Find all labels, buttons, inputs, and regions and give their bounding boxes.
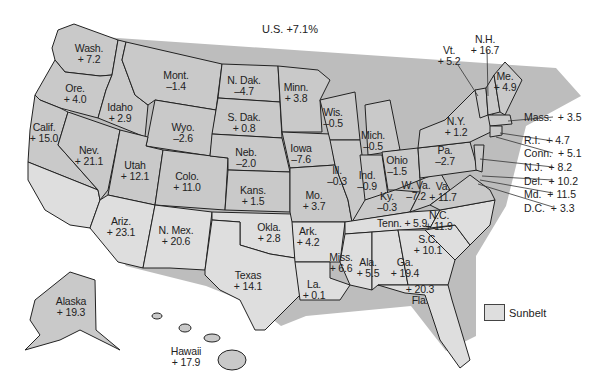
label-okla: Okla.+ 2.8 (257, 222, 281, 244)
state-hawaii-oahu[interactable] (179, 324, 191, 332)
label-pa: Pa.–2.7 (435, 145, 455, 167)
callout-del: Del. + 10.2 (524, 175, 578, 187)
callout-dc: D.C. + 3.3 (524, 202, 575, 214)
label-tenn: Tenn. + 5.9 (377, 218, 427, 229)
label-idaho: Idaho+ 2.9 (107, 102, 132, 124)
state-hawaii-big-island[interactable] (218, 350, 246, 370)
label-ga: Ga.+ 19.4 (391, 257, 419, 279)
label-nc: N.C.+ 11.9 (425, 210, 453, 232)
state-conn[interactable] (490, 126, 502, 137)
label-ny: N.Y.+ 1.2 (445, 116, 468, 138)
label-colo: Colo.+ 11.0 (173, 171, 201, 193)
state-hawaii-maui[interactable] (204, 334, 220, 342)
callout-mass: Mass. + 3.5 (524, 111, 582, 123)
label-neb: Neb.–2.0 (235, 147, 256, 169)
label-kans: Kans.+ 1.5 (240, 185, 266, 207)
sunbelt-swatch (484, 304, 505, 321)
label-hawaii: Hawaii+ 17.9 (171, 346, 201, 368)
label-ndak: N. Dak.–4.7 (227, 75, 261, 97)
label-wyo: Wyo.–2.6 (171, 122, 194, 144)
legend-label: Sunbelt (509, 307, 546, 319)
callout-nj: N.J. + 8.2 (524, 161, 572, 173)
label-nev: Nev.+ 21.1 (75, 145, 103, 167)
state-nj[interactable] (474, 145, 484, 172)
label-utah: Utah+ 12.1 (121, 160, 149, 182)
label-ill: Ill.–0.3 (327, 165, 347, 187)
callout-md: Md. + 11.5 (524, 188, 576, 200)
label-vt: Vt.+ 5.2 (438, 45, 461, 67)
label-va: Va.+ 11.7 (429, 181, 457, 203)
label-wash: Wash.+ 7.2 (75, 43, 103, 65)
callout-conn: Conn. + 5.1 (524, 147, 582, 159)
callout-ri: R.I. + 4.7 (524, 134, 570, 146)
label-mont: Mont.–1.4 (163, 70, 188, 92)
label-mo: Mo.+ 3.7 (303, 190, 326, 212)
label-texas: Texas+ 14.1 (234, 270, 262, 292)
label-alaska: Alaska+ 19.3 (56, 296, 86, 318)
state-mass[interactable] (488, 115, 512, 126)
legend: Sunbelt (484, 304, 546, 321)
label-iowa: Iowa–7.6 (290, 143, 311, 165)
label-wva: W. Va.–7.2 (402, 180, 431, 202)
label-ore: Ore.+ 4.0 (64, 83, 87, 105)
label-ohio: Ohio–1.5 (386, 155, 407, 177)
label-calif: Calif.+ 15.0 (30, 122, 58, 144)
label-ala: Ala.+ 5.5 (357, 257, 380, 279)
label-sdak: S. Dak.+ 0.8 (227, 112, 260, 134)
label-sc: S.C.+ 10.1 (414, 234, 442, 256)
label-nmex: N. Mex.+ 20.6 (159, 225, 194, 247)
label-wis: Wis.–0.5 (323, 107, 343, 129)
label-ariz: Ariz.+ 23.1 (107, 216, 135, 238)
label-ark: Ark.+ 4.2 (297, 226, 320, 248)
label-nh: N.H.+ 16.7 (471, 34, 499, 56)
label-mich: Mich.–0.5 (361, 130, 385, 152)
us-total-label: U.S. +7.1% (262, 23, 318, 35)
label-minn: Minn.+ 3.8 (284, 82, 309, 104)
state-hawaii-kauai[interactable] (152, 313, 162, 319)
label-fla: + 20.3Fla. (406, 284, 434, 306)
label-miss: Miss.+ 6.6 (329, 252, 353, 274)
label-ky: Ky.–0.3 (377, 191, 397, 213)
label-me: Me.+ 4.9 (494, 71, 517, 93)
label-ind: Ind.–0.9 (357, 170, 377, 192)
label-la: La.+ 0.1 (303, 279, 326, 301)
